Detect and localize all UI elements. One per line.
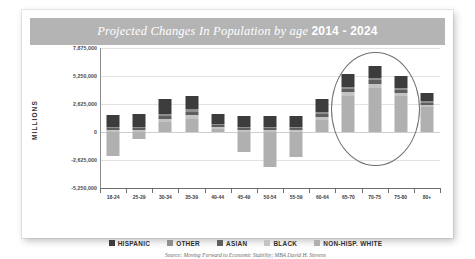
bar-segment [290,127,303,128]
legend-item[interactable]: BLACK [264,240,297,247]
bar-stack [257,48,283,188]
legend-label: BLACK [273,240,297,247]
bar-segment [394,93,407,96]
bar-segment [133,114,146,126]
bar-segment [107,115,120,127]
bar-segment [394,88,407,90]
chart-title-main: Projected Changes In Population by age [97,24,308,38]
bar-segment [211,125,224,127]
bar-segment [263,116,276,127]
bar-segment [185,119,198,132]
bar-segment [237,127,250,128]
x-tick-label: 55-59 [290,194,303,200]
bar-segment [316,112,329,114]
x-tick-label: 45-49 [237,194,250,200]
bar-segment [107,130,120,132]
chart-legend: HISPANICOTHERASIANBLACKNON-HISP. WHITE [38,236,453,250]
bar-segment [420,105,433,107]
bar-segment [368,84,381,88]
bar-segment [316,117,329,120]
bar-stack [152,48,178,188]
legend-label: NON-HISP. WHITE [323,240,382,247]
x-tick-label: 70-75 [368,194,381,200]
x-tick-mark [388,188,389,193]
bar-segment [237,132,250,152]
bar-stack [205,48,231,188]
bar-segment [159,122,172,132]
x-tick-mark [126,188,127,193]
bar-stack [362,48,388,188]
bar-stack [283,48,309,188]
bar-stack [100,48,126,188]
legend-swatch-icon [314,240,320,246]
legend-item[interactable]: OTHER [167,240,200,247]
bar-segment [185,109,198,111]
x-tick-label: 18-24 [107,194,120,200]
legend-swatch-icon [109,240,115,246]
bar-segment [211,124,224,125]
bar-segment [185,115,198,119]
legend-swatch-icon [167,240,173,246]
bar-segment [290,116,303,127]
x-tick-mark [178,188,179,193]
x-tick-mark [440,188,441,193]
bar-segment [290,128,303,130]
bar-series-group [100,48,440,188]
x-tick-mark [414,188,415,193]
bar-stack [231,48,257,188]
legend-label: ASIAN [226,240,247,247]
bar-segment [237,116,250,127]
x-tick-mark [100,188,101,193]
chart-card: Projected Changes In Population by age 2… [22,10,453,238]
bar-segment [420,107,433,132]
x-tick-label: 40-44 [211,194,224,200]
bar-segment [133,130,146,132]
y-axis-title: MILLIONS [31,100,38,140]
bar-segment [263,132,276,167]
legend-item[interactable]: ASIAN [217,240,247,247]
bar-segment [159,114,172,116]
legend-item[interactable]: HISPANIC [109,240,150,247]
bar-stack [414,48,440,188]
bar-segment [263,128,276,130]
bar-segment [290,132,303,157]
bar-segment [342,87,355,89]
bar-segment [394,76,407,87]
bar-segment [263,127,276,128]
bar-segment [368,78,381,80]
bar-stack [335,48,361,188]
y-tick-label: 5,250,000 [73,73,97,79]
bar-stack [309,48,335,188]
bar-segment [368,80,381,84]
x-tick-mark [335,188,336,193]
bar-segment [159,99,172,113]
legend-label: HISPANIC [118,240,150,247]
bar-segment [368,88,381,132]
x-tick-label: 60-64 [316,194,329,200]
bar-segment [159,116,172,119]
bar-segment [394,90,407,93]
screenshot-root: Projected Changes In Population by age 2… [0,0,475,259]
bar-segment [185,96,198,109]
x-tick-mark [309,188,310,193]
y-tick-label: -5,250,000 [71,185,97,191]
x-axis-line [100,188,440,189]
y-tick-label: 0 [94,129,97,135]
x-tick-label: 50-54 [264,194,277,200]
legend-label: OTHER [176,240,200,247]
bar-segment [263,130,276,132]
y-tick-label: -2,625,000 [71,157,97,163]
bar-stack [126,48,152,188]
x-tick-mark [152,188,153,193]
bar-segment [342,89,355,93]
bar-segment [211,127,224,129]
legend-item[interactable]: NON-HISP. WHITE [314,240,382,247]
bar-segment [316,99,329,113]
bar-segment [420,101,433,102]
x-tick-label: 80+ [423,194,431,200]
y-tick-label: 2,625,000 [73,101,97,107]
x-tick-mark [231,188,232,193]
bar-segment [133,128,146,130]
x-tick-label: 75-80 [394,194,407,200]
x-tick-mark [205,188,206,193]
